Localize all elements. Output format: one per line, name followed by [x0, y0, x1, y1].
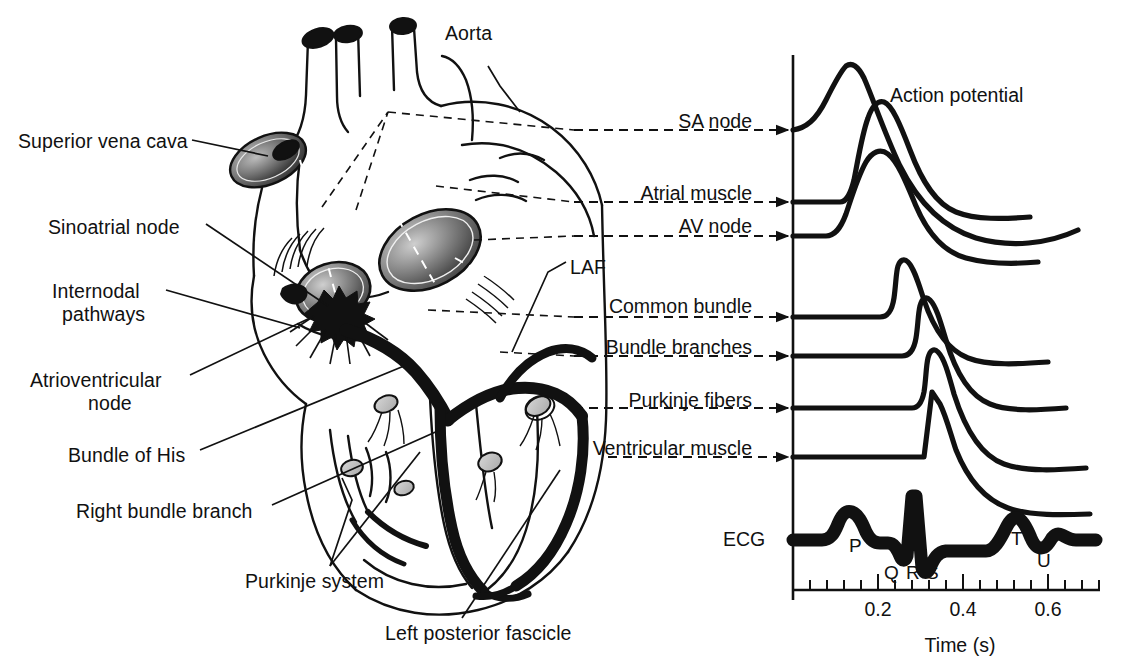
ecg-wave-s: S	[926, 562, 939, 584]
time-tick-label-0-2: 0.2	[848, 598, 908, 621]
time-axis	[793, 574, 1100, 590]
ecg-wave-p: P	[849, 535, 862, 557]
ecg-wave-r: R	[906, 562, 920, 584]
cardiac-conduction-figure: Aorta Superior vena cava Sinoatrial node…	[0, 0, 1131, 669]
ecg-wave-u: U	[1037, 550, 1051, 572]
ecg-wave-q: Q	[884, 562, 899, 584]
ecg-wave-t: T	[1011, 528, 1023, 550]
action-potential-title: Action potential	[890, 84, 1023, 107]
time-tick-label-0-4: 0.4	[933, 598, 993, 621]
time-axis-title: Time (s)	[900, 634, 1020, 657]
time-tick-label-0-6: 0.6	[1018, 598, 1078, 621]
ecg-label: ECG	[723, 528, 765, 551]
